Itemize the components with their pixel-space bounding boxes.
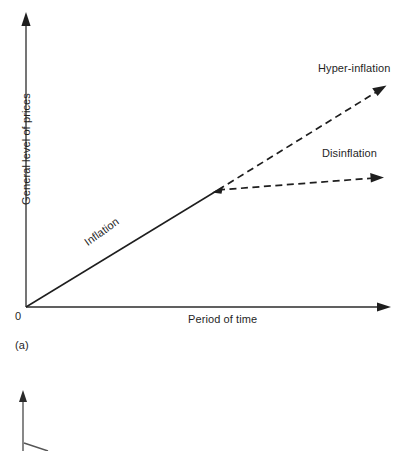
y-axis-label: General level of prices — [20, 69, 32, 229]
x-axis-label: Period of time — [188, 313, 257, 325]
hyper-inflation-arrowhead-icon — [372, 86, 386, 96]
hyper-inflation-trend-line — [218, 91, 378, 190]
y-axis-arrowhead-icon — [21, 12, 30, 26]
disinflation-arrowhead-icon — [370, 173, 384, 182]
figure-container: Hyper-inflation Disinflation Inflation G… — [0, 0, 399, 451]
branch-point-marker — [212, 187, 223, 194]
disinflation-label: Disinflation — [322, 147, 377, 159]
figure-caption: (a) — [15, 339, 29, 351]
partial-figure-trend-line — [24, 443, 48, 451]
partial-figure-arrowhead-icon — [19, 390, 27, 402]
inflation-trend-line — [26, 190, 218, 307]
hyper-inflation-label: Hyper-inflation — [318, 62, 390, 74]
x-axis-arrowhead-icon — [377, 302, 391, 311]
origin-label: 0 — [15, 310, 21, 322]
disinflation-trend-line — [218, 178, 374, 190]
